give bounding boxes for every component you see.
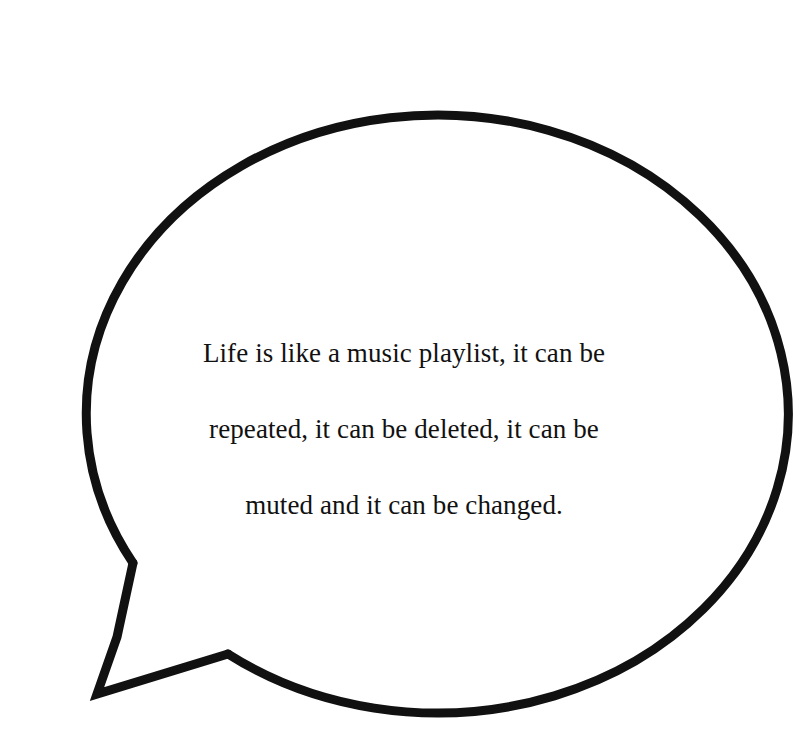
quote-line-3: muted and it can be changed. bbox=[128, 486, 680, 524]
image-canvas: Life is like a music playlist, it can be… bbox=[0, 0, 807, 738]
quote-text-block: Life is like a music playlist, it can be… bbox=[128, 296, 680, 562]
quote-line-1: Life is like a music playlist, it can be bbox=[128, 334, 680, 372]
quote-line-2: repeated, it can be deleted, it can be bbox=[128, 410, 680, 448]
